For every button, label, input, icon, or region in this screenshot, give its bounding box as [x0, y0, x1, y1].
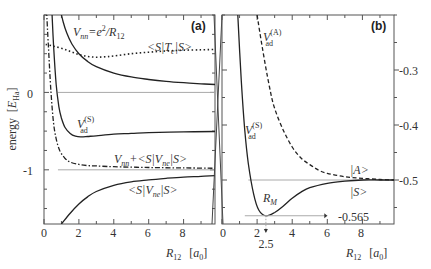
b-xtick-0: 0: [220, 226, 226, 240]
a-xtick-6: 6: [145, 226, 151, 240]
annotation-vnn: Vnn=e2/R12: [73, 24, 124, 41]
curve-v-nn-s-v-ne-s: [47, 11, 215, 168]
panel-b-curves: [238, 15, 394, 216]
annotation-kinetic: <S|Te|S>: [147, 40, 192, 56]
b-ytick-minus-0.3: -0.3: [399, 64, 418, 78]
curve-v-ad-s-s: [238, 15, 394, 216]
a-x-axis-label: R12[a0]: [165, 246, 207, 262]
a-xtick-2: 2: [76, 226, 82, 240]
b-ytick-minus-0.5: -0.5: [399, 174, 418, 188]
minimum-r-label: 2.5: [259, 237, 274, 251]
b-xtick-6: 6: [324, 226, 330, 240]
b-x-axis-label: R12[a0]: [345, 246, 387, 262]
b-xtick-8: 8: [358, 226, 364, 240]
panel-b-frame: [222, 15, 394, 224]
a-xtick-0: 0: [41, 226, 47, 240]
curve-v-ad-a-a: [257, 15, 394, 180]
panel-a-label: (a): [191, 19, 206, 33]
annotation-vad-s-a: V(S)ad: [77, 115, 94, 135]
a-ytick-minus-1: -1: [23, 164, 33, 178]
zoom-connector-lines: [212, 15, 223, 224]
panel-b-ticks: [222, 15, 399, 224]
annotation-ket-s: |S>: [350, 185, 367, 199]
b-xtick-4: 4: [289, 226, 295, 240]
annotation-ket-a: |A>: [350, 163, 369, 177]
minimum-energy-label: -0.565: [338, 210, 369, 224]
annotation-vnn-plus-vne: Vnn+<S|Vne|S>: [114, 152, 187, 168]
annotation-vad-a: V(A)ad: [263, 28, 282, 48]
annotation-rm: RM: [262, 191, 278, 207]
b-ytick-minus-0.4: -0.4: [399, 119, 418, 133]
figure: (a) 0 -1 0 2 4 6 8 energy[EHa] R12[a0] V…: [0, 0, 431, 269]
y-axis-label: energy[EHa]: [5, 87, 21, 150]
panel-b-chart: (b) -0.3 -0.4 -0.5 0 2 4 6 8 2.5 -0.565 …: [220, 15, 418, 262]
panel-b-label: (b): [371, 19, 386, 33]
a-ytick-0: 0: [27, 87, 33, 101]
panel-a-chart: (a) 0 -1 0 2 4 6 8 energy[EHa] R12[a0] V…: [5, 11, 215, 262]
a-xtick-4: 4: [110, 226, 116, 240]
annotation-vad-s-b: V(S)ad: [245, 121, 262, 141]
annotation-vne: <S|Vne|S>: [128, 183, 178, 199]
a-xtick-8: 8: [179, 226, 185, 240]
